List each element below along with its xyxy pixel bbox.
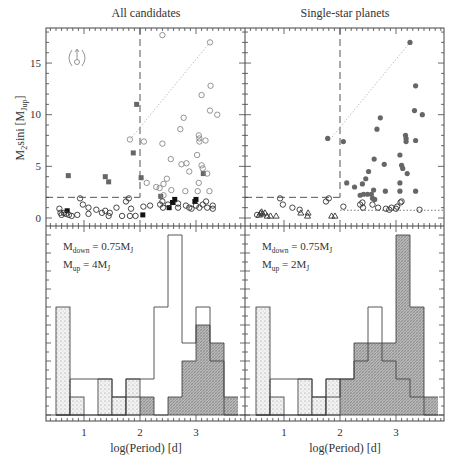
x-tick-3-right: 3: [393, 426, 399, 438]
hist-bar-hatched: [140, 397, 154, 415]
data-point-open-circle: [141, 204, 146, 209]
data-point-open-circle: [127, 213, 132, 218]
y-tick-labels: 0 5 10 15: [30, 57, 42, 224]
data-point-open-circle: [128, 206, 133, 211]
data-point-open-circle: [215, 112, 220, 117]
data-point-open-circle: [280, 202, 285, 207]
hist-bar-hatched: [168, 397, 182, 415]
hist-bar-dotted: [56, 307, 70, 415]
data-point-open-circle: [179, 162, 184, 167]
data-point-open-circle: [119, 213, 124, 218]
data-point-open-circle: [160, 32, 165, 37]
data-point-open-circle: [200, 166, 205, 171]
ylabel-part: Jup: [20, 100, 29, 111]
data-point-filled-circle: [405, 171, 410, 176]
data-point-open-circle: [375, 205, 380, 210]
data-point-open-circle: [168, 156, 173, 161]
data-point-open-circle: [183, 188, 188, 193]
hist-bar-hatched: [410, 307, 424, 415]
hist-bar-dotted: [312, 397, 326, 415]
data-point-open-circle: [187, 169, 192, 174]
data-point-filled-circle: [382, 162, 387, 167]
data-point-filled-circle: [374, 127, 379, 132]
data-point-filled-circle: [413, 189, 418, 194]
data-point-open-circle: [164, 176, 169, 181]
data-point-open-circle: [184, 161, 189, 166]
annotation-right-mdown: Mdown = 0.75MJ: [262, 240, 332, 255]
data-point-filled-circle: [378, 115, 383, 120]
data-point-square: [134, 102, 139, 107]
data-point-open-circle: [147, 203, 152, 208]
hist-bar-hatched: [424, 397, 438, 415]
data-point-open-circle: [196, 180, 201, 185]
data-point-square: [131, 150, 136, 155]
data-point-filled-circle: [397, 189, 402, 194]
figure: All candidates Single-star planets M2sin…: [0, 0, 456, 463]
lower-limit-legend-icon: [69, 49, 85, 66]
data-point-filled-circle: [360, 181, 365, 186]
data-point-filled-circle: [325, 136, 330, 141]
panel-titles: All candidates Single-star planets: [112, 6, 390, 20]
data-point-square-black: [167, 205, 172, 210]
hist-bar-hatched: [340, 379, 354, 415]
data-point-filled-circle: [352, 184, 357, 189]
hist-bar-hatched: [382, 343, 396, 415]
data-point-square: [106, 179, 111, 184]
x-tick-1-right: 1: [281, 426, 287, 438]
x-tick-3-left: 3: [193, 426, 199, 438]
data-point-open-circle: [107, 210, 112, 215]
hist-bar-dotted: [298, 379, 312, 415]
data-point-filled-circle: [400, 166, 405, 171]
data-point-square-black: [194, 197, 199, 202]
data-point-filled-circle: [372, 157, 377, 162]
histogram-panel-single-star: [245, 235, 444, 415]
data-point-open-circle: [178, 126, 183, 131]
data-point-open-circle: [114, 205, 119, 210]
data-point-square: [139, 175, 144, 180]
hist-bar-dotted: [256, 307, 270, 415]
scatter-panel-all-candidates: [46, 28, 220, 219]
data-point-square-black: [140, 212, 145, 217]
dotted-connector-line: [130, 42, 210, 139]
x-tick-labels: 1 2 3 1 2 3 log(Period) [d] log(Period) …: [81, 426, 399, 455]
data-point-filled-circle: [413, 138, 418, 143]
data-point-open-circle: [106, 213, 111, 218]
hist-bar-dotted: [112, 397, 126, 415]
data-point-open-circle: [181, 115, 186, 120]
y-tick-10: 10: [30, 108, 42, 120]
data-point-open-circle: [169, 187, 174, 192]
data-point-open-circle: [277, 196, 282, 201]
data-point-filled-circle: [403, 139, 408, 144]
data-point-filled-circle: [383, 189, 388, 194]
hist-bar-hatched: [196, 325, 210, 415]
ylabel-part: sini [M: [13, 110, 27, 145]
data-point-open-circle: [161, 181, 166, 186]
panel-title-all-candidates: All candidates: [112, 6, 181, 20]
y-tick-15: 15: [30, 57, 42, 69]
hist-bar-hatched: [224, 397, 238, 415]
scatter-panel-single-star: [245, 28, 444, 218]
x-tick-2-right: 2: [337, 426, 343, 438]
data-point-open-circle: [144, 180, 149, 185]
data-point-open-circle: [94, 207, 99, 212]
hist-bar-dotted: [270, 397, 284, 415]
data-point-filled-circle: [407, 40, 412, 45]
data-point-open-circle: [417, 207, 422, 212]
data-point-filled-circle: [344, 180, 349, 185]
data-point-filled-circle: [363, 176, 368, 181]
svg-text:M2sini [MJup]: M2sini [MJup]: [13, 96, 29, 161]
x-tick-1-left: 1: [81, 426, 87, 438]
data-point-open-circle: [154, 184, 159, 189]
hist-bar-hatched: [182, 361, 196, 415]
data-point-filled-circle: [397, 152, 402, 157]
data-point-open-circle: [205, 205, 210, 210]
data-point-open-circle: [208, 83, 213, 88]
data-point-open-circle: [203, 199, 208, 204]
hist-bar-hatched: [368, 343, 382, 415]
y-tick-5: 5: [36, 160, 42, 172]
data-point-open-circle: [141, 139, 146, 144]
ylabel-part: ]: [13, 96, 27, 100]
data-point-open-circle: [199, 163, 204, 168]
data-point-square: [66, 173, 71, 178]
panel-title-single-star: Single-star planets: [301, 6, 390, 20]
